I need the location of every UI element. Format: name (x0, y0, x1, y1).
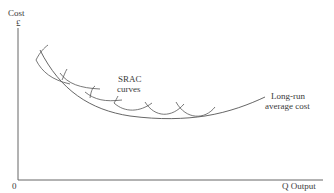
y-axis-unit: £ (16, 18, 21, 28)
lrac-label-line2: average cost (265, 101, 310, 111)
srac-label-line1: SRAC (118, 74, 142, 84)
origin-label: 0 (12, 181, 17, 191)
lrac-label-line1: Long-run (271, 91, 305, 101)
srac-curve-4 (114, 96, 152, 110)
x-axis-label: Q Output (282, 181, 316, 191)
srac-label-line2: curves (117, 84, 141, 94)
y-axis-label: Cost (8, 8, 25, 18)
srac-curve-6 (176, 102, 215, 116)
